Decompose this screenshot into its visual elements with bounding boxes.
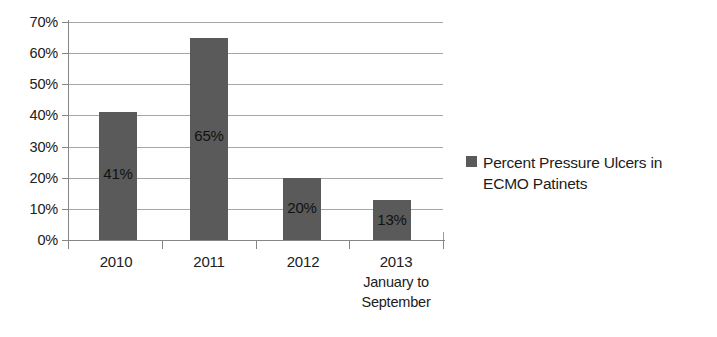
legend-swatch-icon [466, 156, 477, 167]
gridline-70 [68, 22, 443, 23]
y-axis-tick-label-10: 10% [10, 202, 58, 217]
y-axis-tick-label-20: 20% [10, 171, 58, 186]
x-axis-category-2012: 2012 [257, 252, 349, 272]
legend-entry-0[interactable]: Percent Pressure Ulcers in ECMO Patinets [466, 152, 711, 194]
y-axis-tick-label-40: 40% [10, 108, 58, 123]
y-axis-labels: 70% 60% 50% 40% 30% 20% 10% 0% [8, 0, 58, 337]
legend-entry-0-text: Percent Pressure Ulcers in ECMO Patinets [483, 152, 662, 194]
x-axis-category-2013: 2013 January to September [350, 252, 442, 312]
x-axis-tick-0 [68, 240, 69, 249]
x-axis-category-2013-sub2: September [350, 292, 442, 312]
legend-entry-0-line1: Percent Pressure Ulcers in [483, 154, 662, 171]
y-axis-tick-label-50: 50% [10, 77, 58, 92]
x-axis-category-2011: 2011 [163, 252, 255, 272]
bar-value-label-2013: 13% [373, 212, 411, 227]
y-axis-line [68, 20, 69, 242]
x-axis-category-2013-label: 2013 [380, 253, 413, 270]
legend-entry-0-line2: ECMO Patinets [483, 175, 587, 192]
bar-value-label-2011: 65% [190, 128, 228, 143]
bar-2010[interactable]: 41% [99, 112, 137, 240]
bar-value-label-2012: 20% [283, 200, 321, 215]
plot-area: 41% 65% 20% 13% [68, 22, 443, 240]
gridline-60 [68, 53, 443, 54]
y-axis-tick-label-70: 70% [10, 15, 58, 30]
y-axis-tick-label-60: 60% [10, 46, 58, 61]
x-axis-tick-4 [443, 240, 444, 249]
bar-value-label-2010: 41% [99, 166, 137, 181]
x-axis-category-2010: 2010 [70, 252, 162, 272]
bar-2011[interactable]: 65% [190, 38, 228, 240]
x-axis-tick-1 [162, 240, 163, 249]
x-axis-category-2012-label: 2012 [287, 253, 320, 270]
bar-2012[interactable]: 20% [283, 178, 321, 240]
x-axis-category-2013-sub1: January to [350, 272, 442, 292]
x-axis-tick-3 [349, 240, 350, 249]
x-axis-category-2011-label: 2011 [193, 253, 224, 270]
bar-chart: 70% 60% 50% 40% 30% 20% 10% 0% 41% 65% 2… [0, 0, 717, 337]
y-axis-tick-label-30: 30% [10, 140, 58, 155]
gridline-50 [68, 84, 443, 85]
x-axis-category-2010-label: 2010 [100, 253, 133, 270]
x-axis-tick-2 [256, 240, 257, 249]
bar-2013[interactable]: 13% [373, 200, 411, 240]
y-axis-tick-label-0: 0% [10, 233, 58, 248]
legend: Percent Pressure Ulcers in ECMO Patinets [466, 152, 711, 194]
